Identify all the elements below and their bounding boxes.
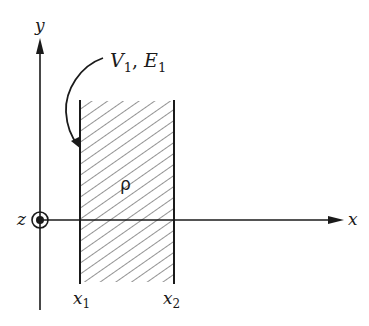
y-axis-label: y	[34, 15, 45, 35]
y-axis	[36, 38, 44, 310]
x-axis-label: x	[348, 209, 358, 229]
potential-field-annotation: V1, E1	[110, 49, 166, 75]
x2-label: x2	[163, 288, 180, 311]
z-axis-label: z	[16, 209, 27, 229]
x-axis-arrowhead-icon	[328, 216, 344, 224]
x1-label: x1	[73, 288, 90, 311]
charged-slab-diagram: y x z ρ x1 x2 V1, E1	[0, 0, 369, 326]
charge-density-label: ρ	[120, 174, 131, 194]
y-axis-arrowhead-icon	[36, 38, 44, 54]
